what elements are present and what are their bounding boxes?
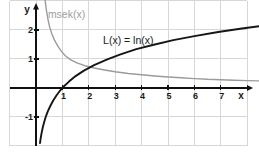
function-plot-container: 1234567-112xymsek(x)L(x) = ln(x) (0, 0, 259, 154)
x-tick-label: 5 (166, 91, 171, 101)
x-axis-arrow-icon (247, 85, 253, 91)
x-tick-label: 1 (61, 91, 66, 101)
x-tick-label: 6 (193, 91, 198, 101)
curve-label-ln: L(x) = ln(x) (103, 34, 153, 46)
x-tick-label: 2 (87, 91, 92, 101)
y-tick-label: 1 (28, 54, 33, 64)
y-axis-label: y (24, 4, 30, 15)
y-tick-label: -1 (25, 112, 33, 122)
function-plot-svg: 1234567-112xymsek(x)L(x) = ln(x) (0, 0, 259, 154)
x-tick-label: 3 (114, 91, 119, 101)
x-tick-label: 7 (219, 91, 224, 101)
y-axis-arrow-icon (33, 3, 39, 10)
curve-label-msek: msek(x) (48, 8, 85, 20)
y-tick-label: 2 (28, 25, 33, 35)
x-tick-label: 4 (140, 91, 145, 101)
x-axis-label: x (238, 90, 244, 101)
